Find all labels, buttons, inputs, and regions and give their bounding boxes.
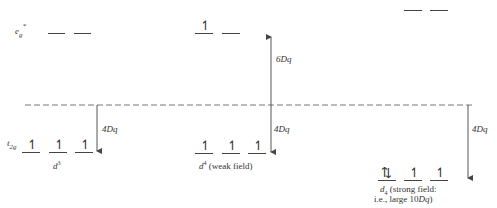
spin-up-icon: ↿ bbox=[227, 139, 238, 152]
d3-eg-level-2 bbox=[74, 33, 91, 34]
d4s-4dq-label: 4Dq bbox=[472, 124, 488, 134]
spin-up-icon: ↿ bbox=[80, 138, 91, 151]
d4s-label-line2-italic: Dq bbox=[419, 194, 430, 204]
spin-up-icon: ↿ bbox=[200, 19, 211, 32]
d3-t2g-level-2 bbox=[49, 152, 67, 153]
d4w-eg-level-1 bbox=[195, 33, 213, 34]
d4w-t2g-level-3 bbox=[248, 153, 266, 154]
d4w-t2g-level-1 bbox=[195, 153, 213, 154]
d3-eg-level-1 bbox=[48, 33, 65, 34]
spin-up-icon: ↿ bbox=[435, 166, 446, 179]
d3-t2g-level-1 bbox=[22, 152, 40, 153]
d4s-t2g-level-2 bbox=[404, 180, 422, 181]
d4s-config-label-line2: i.e., large 10Dq) bbox=[374, 194, 433, 204]
d4w-t2g-level-2 bbox=[222, 153, 240, 154]
diagram-lines bbox=[0, 0, 497, 208]
d3-4dq-label: 4Dq bbox=[102, 124, 118, 134]
spin-up-icon: ↿ bbox=[253, 139, 264, 152]
d4s-eg-level-2 bbox=[430, 10, 448, 11]
spin-up-icon: ↿ bbox=[200, 139, 211, 152]
d4s-label-rest: (strong field: bbox=[388, 184, 437, 194]
d4s-label-line2-end: ) bbox=[430, 194, 433, 204]
d3-label-sup: 3 bbox=[58, 160, 61, 166]
eg-label-sub: g bbox=[19, 31, 23, 39]
d4w-eg-level-2 bbox=[222, 33, 240, 34]
d4s-eg-level-1 bbox=[404, 10, 422, 11]
d4w-6dq-label: 6Dq bbox=[276, 54, 292, 64]
t2g-label: t2g bbox=[7, 138, 17, 151]
d4w-label-rest: (weak field) bbox=[207, 161, 253, 171]
d4s-t2g-level-1 bbox=[378, 180, 396, 181]
t2g-label-sub: 2g bbox=[10, 143, 17, 151]
eg-label-sup: * bbox=[23, 22, 27, 30]
spin-up-icon: ↿ bbox=[27, 138, 38, 151]
d4w-4dq-label: 4Dq bbox=[274, 124, 290, 134]
spin-pair-icon: ⇅ bbox=[381, 166, 392, 179]
d4s-t2g-level-3 bbox=[430, 180, 448, 181]
eg-label: eg* bbox=[15, 24, 26, 39]
d4w-config-label: d4 (weak field) bbox=[199, 158, 252, 171]
d3-config-label: d3 bbox=[53, 158, 61, 171]
spin-up-icon: ↿ bbox=[409, 166, 420, 179]
d3-t2g-level-3 bbox=[75, 152, 93, 153]
d4s-label-line2: i.e., large 10 bbox=[374, 194, 419, 204]
spin-up-icon: ↿ bbox=[54, 138, 65, 151]
